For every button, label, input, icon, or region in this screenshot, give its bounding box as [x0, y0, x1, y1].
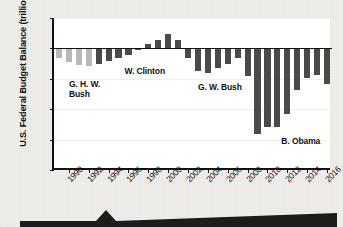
y-axis-tick [50, 140, 54, 141]
arrow-banner-shape [20, 205, 337, 227]
chart-plot-frame: $0.50-0.5-1.0-1.5-2.01990199219941996199… [52, 18, 330, 170]
y-axis-title: U.S. Federal Budget Balance (trillions) [18, 0, 28, 152]
chart-bar [56, 48, 62, 57]
chart-annotation: B. Obama [281, 137, 320, 147]
y-axis-tick [50, 170, 54, 171]
chart-bar [125, 48, 131, 55]
y-axis-tick [50, 18, 54, 19]
chart-bar [274, 48, 280, 127]
chart-bar [264, 48, 270, 126]
chart-bar [165, 34, 171, 49]
chart-bar [254, 48, 260, 134]
chart-bar [175, 40, 181, 48]
chart-bar [304, 48, 310, 77]
chart-bar [96, 48, 102, 64]
chart-bar [284, 48, 290, 114]
chart-plot-area: $0.50-0.5-1.0-1.5-2.01990199219941996199… [54, 18, 330, 168]
chart-bar [205, 48, 211, 73]
y-gridline [54, 18, 330, 19]
chart-bar [155, 40, 161, 48]
y-axis-tick [50, 109, 54, 110]
chart-bar [195, 48, 201, 71]
zero-axis-line [54, 48, 332, 49]
arrow-banner [20, 205, 337, 227]
chart-bar [245, 48, 251, 76]
chart-annotation: W. Clinton [124, 67, 165, 77]
y-axis-tick [50, 48, 54, 49]
chart-bar [106, 48, 112, 60]
chart-bar [115, 48, 121, 58]
chart-bar [235, 48, 241, 58]
chart-bar [86, 48, 92, 66]
chart-bar [76, 48, 82, 64]
chart-bar [314, 48, 320, 75]
chart-bar [66, 48, 72, 61]
chart-bar [215, 48, 221, 67]
chart-bar [294, 48, 300, 89]
chart-bar [225, 48, 231, 63]
chart-bar [185, 48, 191, 58]
chart-bar [324, 48, 330, 84]
y-axis-tick [50, 79, 54, 80]
chart-annotation: G. H. W. Bush [69, 80, 100, 99]
chart-annotation: G. W. Bush [198, 83, 242, 93]
